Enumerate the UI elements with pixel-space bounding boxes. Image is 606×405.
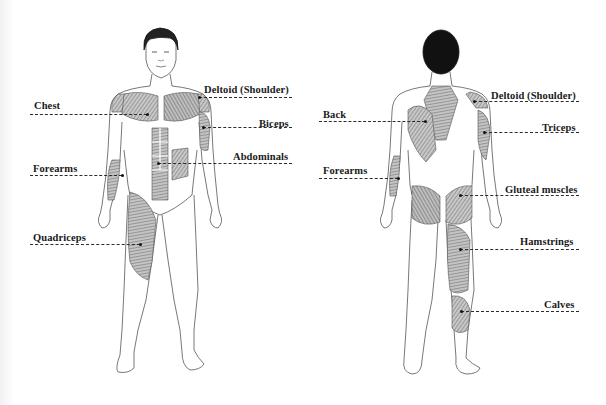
front-head [144,28,178,86]
pointer-dot-chest [146,113,149,116]
chest-right [164,92,200,121]
leader-forearms-back [319,178,398,179]
obliques-right [172,148,188,180]
back-head [423,30,459,86]
pointer-dot-gluteal [459,194,462,197]
hamstrings-right [447,224,470,293]
label-quadriceps: Quadriceps [33,232,86,243]
forearm-left [108,160,121,200]
label-back: Back [323,109,346,120]
label-forearms-front: Forearms [33,163,77,174]
leader-quadriceps [30,244,140,245]
pointer-dot-biceps [202,126,205,129]
label-deltoid-front: Deltoid (Shoulder) [204,84,289,95]
leader-biceps [203,127,292,128]
label-forearms-back: Forearms [323,165,367,176]
back-forearm-left [390,156,401,196]
leader-chest [30,114,147,115]
pointer-dot-abdominals [157,162,160,165]
triceps-right [478,110,490,160]
leader-deltoid-back [474,101,579,102]
pointer-dot-forearms-front [121,174,124,177]
gluteal-left [412,186,440,225]
front-muscles [108,92,211,280]
leader-calves [461,311,579,312]
biceps-right [199,112,210,151]
label-abdominals: Abdominals [233,151,288,162]
pointer-dot-calves [460,310,463,313]
label-hamstrings: Hamstrings [520,236,574,247]
back-figure [380,30,501,374]
label-deltoid-back: Deltoid (Shoulder) [491,90,576,101]
leader-triceps [484,132,579,133]
back-muscles [390,86,491,333]
leader-deltoid-front [199,97,292,98]
leader-gluteal [460,195,579,196]
muscle-diagram [0,0,606,405]
quadriceps-left [128,192,156,280]
pointer-dot-triceps [483,131,486,134]
chest-left [122,92,158,121]
leader-hamstrings [460,249,579,250]
pointer-dot-forearms-back [397,177,400,180]
leader-abdominals [158,163,292,164]
back-lats-left [408,106,436,162]
label-gluteal: Gluteal muscles [505,184,577,195]
label-calves: Calves [544,299,574,310]
gluteal-right [446,186,472,225]
back-deltoid-right [466,92,488,108]
label-chest: Chest [34,100,60,111]
pointer-dot-deltoid-front [198,96,201,99]
pointer-dot-quadriceps [139,243,142,246]
leader-forearms-front [30,175,122,176]
leader-back [319,121,425,122]
calves-right [452,296,470,333]
pointer-dot-deltoid-back [473,100,476,103]
pointer-dot-hamstrings [459,248,462,251]
pointer-dot-back [424,120,427,123]
